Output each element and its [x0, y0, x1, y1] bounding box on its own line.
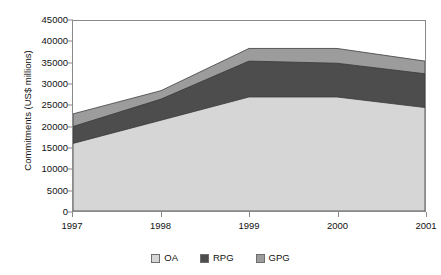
x-axis-ticks: 19971998199920002001: [0, 212, 441, 240]
y-tick-label: 20000: [42, 122, 68, 132]
chart-figure: Commitments (US$ millions) 0500010000150…: [0, 0, 441, 275]
legend-swatch-icon: [200, 254, 209, 263]
x-tick-mark: [249, 212, 250, 217]
legend-label: GPG: [269, 253, 290, 263]
y-tick-label: 10000: [42, 165, 68, 175]
legend-swatch-icon: [256, 254, 265, 263]
area-series-group: [73, 48, 425, 211]
legend-swatch-icon: [151, 254, 160, 263]
plot-area: [72, 20, 426, 212]
y-tick-label: 35000: [42, 58, 68, 68]
x-tick-label: 2000: [327, 221, 348, 231]
x-tick-label: 2001: [415, 221, 436, 231]
stacked-area-svg: [73, 21, 425, 211]
y-tick-label: 40000: [42, 37, 68, 47]
y-tick-label: 5000: [47, 186, 68, 196]
x-tick-label: 1998: [150, 221, 171, 231]
x-tick-mark: [426, 212, 427, 217]
legend-item-oa[interactable]: OA: [151, 253, 178, 263]
x-tick-mark: [161, 212, 162, 217]
legend-item-rpg[interactable]: RPG: [200, 253, 234, 263]
chart-legend: OARPGGPG: [0, 249, 441, 267]
y-tick-label: 25000: [42, 101, 68, 111]
x-tick-mark: [338, 212, 339, 217]
y-tick-label: 45000: [42, 15, 68, 25]
y-tick-label: 15000: [42, 143, 68, 153]
x-tick-label: 1997: [61, 221, 82, 231]
legend-item-gpg[interactable]: GPG: [256, 253, 290, 263]
x-tick-label: 1999: [238, 221, 259, 231]
x-tick-mark: [72, 212, 73, 217]
y-axis-ticks: 0500010000150002000025000300003500040000…: [0, 0, 68, 232]
y-tick-label: 30000: [42, 79, 68, 89]
legend-label: RPG: [213, 253, 234, 263]
legend-label: OA: [164, 253, 178, 263]
